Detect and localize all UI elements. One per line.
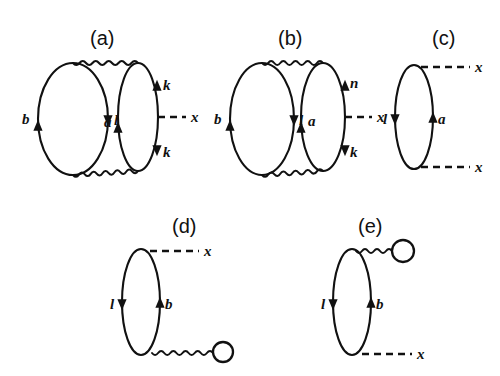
panel-e: (e)lbx [321, 215, 425, 362]
particle-label-arrow-a-b: a [308, 113, 316, 129]
arrowhead-arrow-b-d [155, 297, 164, 308]
panels-group: (a)blakkx(b)blankx(c)laxx(d)lbx(e)lbx [22, 27, 483, 362]
wavy-line-tadpole-stem-e [356, 249, 392, 253]
particle-label-arrow-l-e: l [321, 296, 326, 312]
external-x-label-a: x [190, 109, 199, 125]
panel-label-a: (a) [90, 27, 114, 49]
fermion-loop-right-loop-a [118, 63, 158, 171]
particle-label-arrow-k-upper-a: k [163, 77, 171, 93]
arrowhead-arrow-l-c [390, 114, 399, 125]
panel-d: (d)lbx [110, 215, 233, 362]
fermion-loop-left-loop-b [230, 63, 294, 175]
particle-label-arrow-l-d: l [110, 296, 115, 312]
tadpole-circle-d [213, 342, 233, 362]
particle-label-arrow-b-a: b [22, 111, 30, 127]
particle-label-arrow-a-c: a [438, 111, 446, 127]
particle-label-arrow-n-b: n [350, 75, 358, 91]
particle-label-arrow-b-d: b [165, 296, 173, 312]
wavy-line-bottom-interaction-b [262, 169, 323, 177]
external-x-label-d: x [203, 243, 212, 259]
wavy-line-bottom-interaction-a [73, 170, 138, 177]
arrowhead-arrow-a-b [296, 122, 305, 133]
fermion-loop-main-loop-e [333, 249, 371, 355]
fermion-loop-main-loop-c [395, 65, 433, 169]
feynman-figure: (a)blakkx(b)blankx(c)laxx(d)lbx(e)lbx [0, 0, 500, 376]
arrowhead-arrow-b-b [225, 120, 234, 131]
external-x-top-label-c: x [474, 59, 483, 75]
panel-b: (b)blankx [214, 27, 385, 177]
external-x-bottom-label-c: x [474, 159, 483, 175]
particle-label-arrow-a-a: a [104, 114, 112, 130]
panel-label-c: (c) [432, 27, 455, 49]
external-x-label-e: x [416, 346, 425, 362]
panel-label-d: (d) [172, 215, 196, 237]
fermion-loop-left-loop-a [38, 63, 108, 175]
particle-label-arrow-k-b: k [350, 144, 358, 160]
arrowhead-arrow-b-e [366, 297, 375, 308]
tadpole-circle-e [392, 240, 414, 262]
arrowhead-arrow-a-c [428, 112, 437, 123]
diagram-canvas: (a)blakkx(b)blankx(c)laxx(d)lbx(e)lbx [0, 0, 500, 376]
arrowhead-arrow-l-e [328, 299, 337, 310]
panel-c: (c)laxx [383, 27, 483, 175]
particle-label-arrow-b-e: b [376, 296, 384, 312]
particle-label-arrow-k-lower-a: k [163, 144, 171, 160]
arrowhead-arrow-l-d [117, 299, 126, 310]
arrowhead-arrow-l-b [289, 115, 298, 126]
fermion-loop-main-loop-d [122, 249, 160, 355]
particle-label-arrow-b-b: b [214, 111, 222, 127]
wavy-line-tadpole-stem-d [152, 351, 213, 355]
panel-a: (a)blakkx [22, 27, 199, 177]
arrowhead-arrow-k-b [340, 145, 349, 156]
particle-label-arrow-l-c: l [383, 111, 388, 127]
panel-label-e: (e) [358, 215, 382, 237]
panel-label-b: (b) [278, 27, 302, 49]
arrowhead-arrow-b-a [33, 120, 42, 131]
